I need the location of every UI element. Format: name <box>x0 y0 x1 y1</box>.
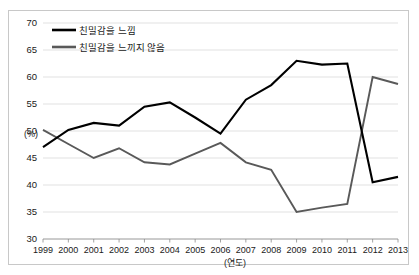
x-axis-tick-label: 2002 <box>109 245 129 255</box>
x-axis-tick-label: 2003 <box>134 245 154 255</box>
x-axis-tick-label: 2008 <box>261 245 281 255</box>
x-axis-tick-label: 2006 <box>210 245 230 255</box>
x-axis-tick-label: 2010 <box>312 245 332 255</box>
x-axis-tick-label: 2013 <box>388 245 408 255</box>
legend-label-not-close: 친밀감을 느끼지 않음 <box>79 42 165 53</box>
chart-container: 303540455055606570 199920002001200220032… <box>0 0 419 275</box>
line-chart: 303540455055606570 199920002001200220032… <box>0 0 419 275</box>
x-axis-tick-marks <box>43 239 398 243</box>
x-axis-tick-label: 2000 <box>58 245 78 255</box>
series-line-not-close <box>43 77 398 212</box>
x-axis-tick-label: 2005 <box>185 245 205 255</box>
gridlines <box>43 23 398 239</box>
x-axis-tick-label: 2009 <box>287 245 307 255</box>
x-axis-tick-labels: 1999200020012002200320042005200620072008… <box>33 245 408 255</box>
series-line-close <box>43 61 398 183</box>
x-axis-tick-label: 2007 <box>236 245 256 255</box>
x-axis-tick-label: 2001 <box>84 245 104 255</box>
x-axis-tick-label: 2012 <box>363 245 383 255</box>
y-axis-tick-label: 55 <box>26 98 37 109</box>
y-axis-unit-label: (%) <box>24 129 38 139</box>
y-axis-tick-label: 40 <box>26 179 37 190</box>
y-axis-tick-label: 45 <box>26 152 37 163</box>
x-axis-caption: (연도) <box>224 258 246 268</box>
legend: 친밀감을 느낌 친밀감을 느끼지 않음 <box>52 25 165 53</box>
legend-label-close: 친밀감을 느낌 <box>79 25 136 36</box>
x-axis-tick-label: 2004 <box>160 245 180 255</box>
y-axis-tick-label: 70 <box>26 17 37 28</box>
x-axis-tick-label: 1999 <box>33 245 53 255</box>
y-axis-tick-label: 30 <box>26 233 37 244</box>
y-axis-tick-label: 60 <box>26 71 37 82</box>
data-series-group <box>43 61 398 212</box>
y-axis-tick-label: 65 <box>26 44 37 55</box>
y-axis-tick-label: 35 <box>26 206 37 217</box>
x-axis-tick-label: 2011 <box>338 245 357 255</box>
